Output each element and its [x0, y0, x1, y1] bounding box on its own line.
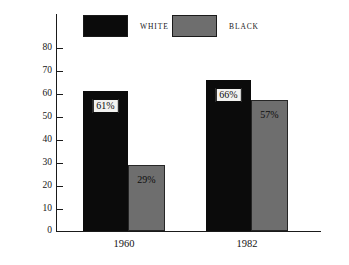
y-tick-label-40: 40: [43, 134, 53, 145]
bar-value-black-1960: 29%: [135, 173, 157, 186]
x-axis-label-1982: 1982: [237, 238, 258, 249]
y-tick-20: 20: [56, 186, 63, 187]
y-tick-label-10: 10: [43, 203, 53, 214]
y-tick-60: 60: [56, 94, 63, 95]
x-axis-label-1960: 1960: [114, 238, 135, 249]
plot-area: PERCENT REGISTERED 80 70 60 50 40 30 20 …: [56, 14, 321, 232]
y-tick-label-20: 20: [43, 180, 53, 191]
y-axis-title: PERCENT REGISTERED: [70, 0, 84, 28]
bar-black-1960[interactable]: 29%: [128, 165, 165, 231]
bar-white-1982[interactable]: 66%: [206, 80, 251, 231]
bar-chart-figure: WHITE BLACK PERCENT REGISTERED 80 70 60 …: [0, 0, 349, 265]
bar-value-black-1982: 57%: [258, 108, 280, 121]
y-tick-50: 50: [56, 117, 63, 118]
y-tick-label-0: 0: [47, 225, 52, 236]
y-tick-70: 70: [56, 71, 63, 72]
y-axis-line: [56, 14, 57, 232]
bar-value-white-1960: 61%: [92, 99, 118, 113]
y-tick-80: 80: [56, 48, 63, 49]
y-tick-label-60: 60: [43, 88, 53, 99]
y-tick-label-50: 50: [43, 111, 53, 122]
y-tick-label-80: 80: [43, 42, 53, 53]
y-tick-label-30: 30: [43, 157, 53, 168]
y-tick-40: 40: [56, 140, 63, 141]
y-tick-30: 30: [56, 163, 63, 164]
bar-value-white-1982: 66%: [215, 88, 241, 102]
y-tick-0: 0: [56, 231, 63, 232]
x-axis-line: [56, 231, 321, 232]
y-tick-label-70: 70: [43, 65, 53, 76]
y-tick-10: 10: [56, 209, 63, 210]
bar-white-1960[interactable]: 61%: [83, 91, 128, 231]
bar-black-1982[interactable]: 57%: [251, 100, 288, 231]
